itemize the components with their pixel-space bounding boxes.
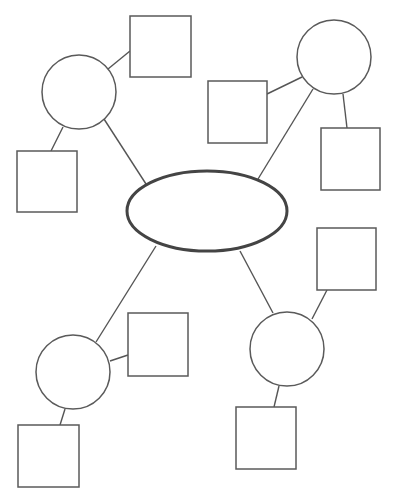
connector-branch-top-right-to-leaf-top-right-a [267, 77, 302, 94]
connector-center-to-branch-bottom-right [240, 251, 273, 313]
connector-branch-bottom-left-to-leaf-bottom-left-a [110, 355, 128, 361]
leaf-bottom-right-a-box[interactable] [317, 228, 376, 290]
mind-map-diagram [0, 0, 396, 500]
branch-top-left-circle[interactable] [42, 55, 116, 129]
leaf-top-left-b-box[interactable] [17, 151, 77, 212]
branch-bottom-right-circle[interactable] [250, 312, 324, 386]
leaf-top-left-a-box[interactable] [130, 16, 191, 77]
leaf-top-right-b-box[interactable] [321, 128, 380, 190]
branch-bottom-left-circle[interactable] [36, 335, 110, 409]
mind-map-canvas [0, 0, 396, 500]
leaf-bottom-left-b-box[interactable] [18, 425, 79, 487]
connector-branch-bottom-right-to-leaf-bottom-right-a [312, 290, 327, 319]
connector-center-to-branch-top-left [104, 119, 146, 184]
connector-branch-top-left-to-leaf-top-left-a [108, 51, 130, 69]
central-topic-ellipse[interactable] [127, 171, 287, 251]
leaf-bottom-right-b-box[interactable] [236, 407, 296, 469]
leaf-top-right-a-box[interactable] [208, 81, 267, 143]
connector-branch-top-right-to-leaf-top-right-b [343, 94, 347, 128]
connector-branch-bottom-right-to-leaf-bottom-right-b [274, 386, 279, 407]
connector-branch-bottom-left-to-leaf-bottom-left-b [60, 409, 65, 425]
leaf-bottom-left-a-box[interactable] [128, 313, 188, 376]
branch-top-right-circle[interactable] [297, 20, 371, 94]
diagram-nodes [17, 16, 380, 487]
connector-branch-top-left-to-leaf-top-left-b [51, 127, 63, 151]
